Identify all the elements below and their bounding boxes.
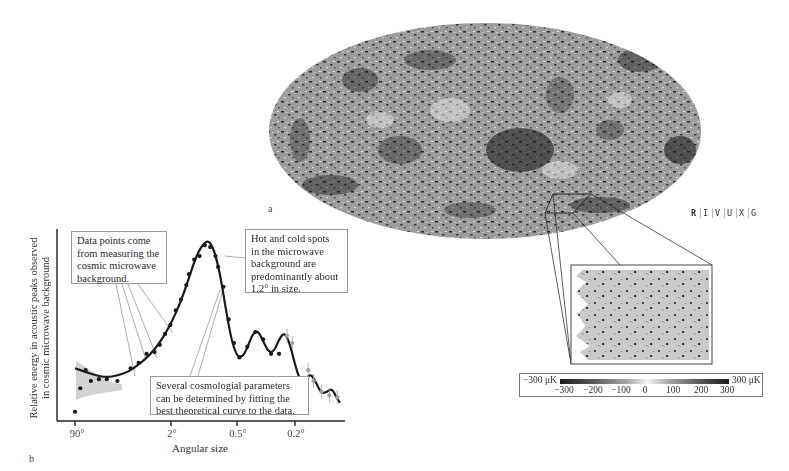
data-point	[73, 410, 77, 414]
cmb-inset-patch	[571, 265, 712, 364]
data-point	[158, 343, 162, 347]
data-point	[89, 379, 93, 383]
data-point	[115, 379, 119, 383]
callout-line: predominantly about	[251, 271, 342, 284]
cmb-sky-map	[269, 23, 701, 239]
data-point	[144, 352, 148, 356]
band-x: X	[736, 208, 747, 218]
callout-line: from measuring the	[77, 248, 161, 261]
data-point	[227, 317, 231, 321]
data-point	[285, 334, 289, 338]
data-point	[216, 265, 220, 269]
colorbar-tick: 0	[643, 385, 648, 395]
callout-line: cosmic microwave	[77, 260, 161, 273]
data-point	[184, 283, 188, 287]
data-point	[179, 297, 183, 301]
data-point	[237, 355, 241, 359]
colorbar-tick: 200	[694, 385, 708, 395]
colorbar-tick: 100	[666, 385, 680, 395]
callout-line: background are	[251, 258, 342, 271]
x-tick-label: 90°	[70, 428, 85, 439]
data-point	[192, 258, 196, 262]
x-tick-label: 0.5°	[229, 428, 246, 439]
data-point	[84, 368, 88, 372]
data-point	[97, 377, 101, 381]
band-i: I	[700, 208, 711, 218]
callout-line: best theoretical curve to the data.	[156, 405, 303, 418]
data-point	[311, 379, 315, 383]
data-point	[290, 341, 294, 345]
callout-data-points: Data points come from measuring the cosm…	[71, 231, 167, 284]
data-point	[319, 390, 323, 394]
band-g: G	[748, 208, 759, 218]
data-point	[269, 352, 273, 356]
callout-cosmological-parameters: Several cosmologial parameters can be de…	[150, 376, 309, 415]
callout-line: 1.2° in size.	[251, 283, 342, 296]
data-point	[208, 245, 212, 249]
data-point	[78, 386, 82, 390]
data-point	[129, 366, 133, 370]
data-point	[105, 377, 109, 381]
x-tick-label: 0.2°	[287, 428, 304, 439]
data-point	[203, 243, 207, 247]
colorbar-min-label: −300 μK	[523, 375, 557, 385]
callout-hot-cold-spots: Hot and cold spots in the microwave back…	[245, 229, 348, 293]
chart-x-axis-label: Angular size	[172, 442, 228, 454]
colorbar-gradient	[560, 379, 729, 384]
data-point	[245, 345, 249, 349]
band-r: R	[689, 208, 699, 218]
callout-line: can be determined by fitting the	[156, 393, 303, 406]
data-point	[152, 350, 156, 354]
data-point	[197, 254, 201, 258]
colorbar-tick: −100	[611, 385, 631, 395]
colorbar-tick: −200	[583, 385, 603, 395]
temperature-colorbar: −300 μK 300 μK −300 −200 −100 0 100 200 …	[519, 373, 763, 397]
data-point	[261, 337, 265, 341]
x-tick-label: 2°	[167, 428, 176, 439]
y-axis-label-line-2: in cosmic microwave background	[40, 228, 52, 428]
panel-label-b: b	[29, 453, 34, 464]
colorbar-tick: 300	[720, 385, 734, 395]
data-point	[163, 332, 167, 336]
data-point	[137, 361, 141, 365]
data-point	[168, 323, 172, 327]
data-point	[277, 352, 281, 356]
data-point	[221, 285, 225, 289]
panel-label-a: a	[268, 203, 272, 214]
data-point	[306, 368, 310, 372]
data-point	[335, 395, 339, 399]
callout-line: Hot and cold spots	[251, 233, 342, 246]
data-point	[327, 393, 331, 397]
wavelength-band-indicator: R I V U X G	[689, 208, 759, 218]
chart-y-axis-label: Relative energy in acoustic peaks observ…	[28, 228, 52, 428]
y-axis-label-line-1: Relative energy in acoustic peaks observ…	[28, 228, 40, 428]
data-point	[232, 341, 236, 345]
data-point	[187, 272, 191, 276]
data-point	[174, 308, 178, 312]
band-u: U	[724, 208, 735, 218]
data-point	[213, 254, 217, 258]
colorbar-max-label: 300 μK	[732, 375, 761, 385]
callout-line: Several cosmologial parameters	[156, 380, 303, 393]
callout-line: Data points come	[77, 235, 161, 248]
data-point	[253, 330, 257, 334]
callout-line: background.	[77, 273, 161, 286]
colorbar-tick: −300	[554, 385, 574, 395]
callout-line: in the microwave	[251, 246, 342, 259]
band-v: V	[712, 208, 723, 218]
